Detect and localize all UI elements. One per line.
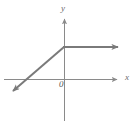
coordinate-plot (0, 0, 135, 127)
graph-diagonal-ray (13, 47, 64, 91)
origin-label: 0 (59, 80, 64, 89)
y-axis-label: y (61, 4, 65, 13)
x-axis-label: x (125, 73, 129, 82)
math-graph-figure: y x 0 (0, 0, 135, 127)
